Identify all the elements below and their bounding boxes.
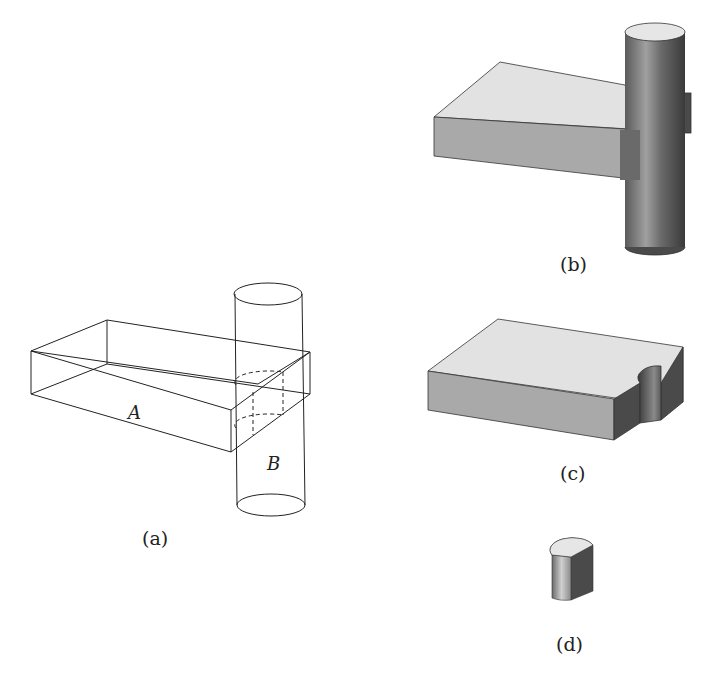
caption-b: (b) bbox=[560, 253, 587, 275]
label-B: B bbox=[266, 453, 280, 474]
figure-canvas: A B (a) (b) (c) (d) bbox=[0, 0, 718, 681]
panel-a-wireframe bbox=[31, 283, 310, 516]
panel-d-intersection bbox=[550, 538, 593, 601]
panel-c-difference bbox=[428, 319, 683, 440]
caption-d: (d) bbox=[556, 633, 583, 655]
caption-c: (c) bbox=[560, 462, 585, 484]
label-A: A bbox=[126, 402, 141, 423]
caption-a: (a) bbox=[142, 527, 168, 549]
panel-b-union bbox=[434, 23, 691, 255]
